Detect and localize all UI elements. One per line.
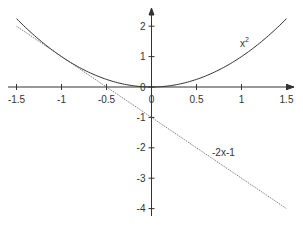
x-tick-label: 0.5 [190,94,204,105]
x-tick-label: 1.5 [280,94,294,105]
x-axis-arrow-icon [287,85,294,90]
x-tick-label: -1.5 [8,94,26,105]
x-tick-label: -1 [57,94,66,105]
function-plot: -1.5-1-0.500.511.5-4-3-2-1012 x2 -2x-1 [0,0,303,228]
y-tick-label: -1 [137,112,146,123]
y-tick-label: -4 [137,203,146,214]
series-label-x-squared: x2 [240,36,249,49]
series-label-tangent: -2x-1 [212,147,235,158]
y-axis-arrow-icon [149,8,154,15]
y-tick-label: -3 [137,173,146,184]
y-tick-label: 1 [140,51,146,62]
x-tick-label: 1 [239,94,245,105]
axes [8,8,294,216]
x-tick-label: 0 [149,94,155,105]
x-tick-label: -0.5 [98,94,116,105]
y-tick-label: 2 [140,21,146,32]
y-tick-label: -2 [137,142,146,153]
